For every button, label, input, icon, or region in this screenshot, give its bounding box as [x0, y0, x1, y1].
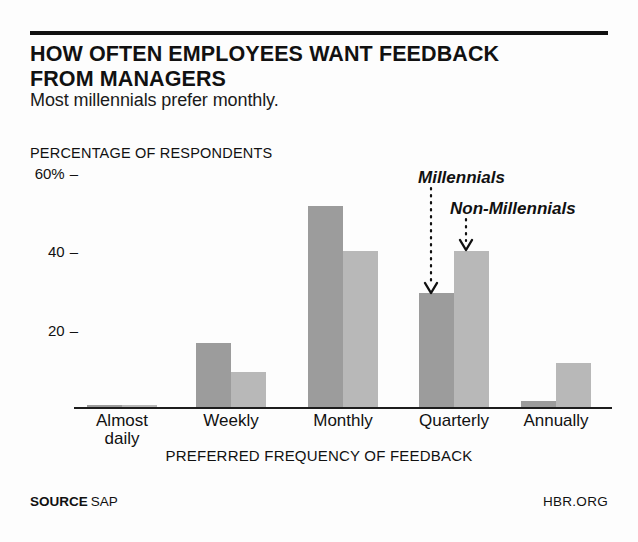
bar-non-millennials	[231, 372, 266, 409]
y-tick-20: 20–	[22, 322, 78, 339]
bar-non-millennials	[556, 363, 591, 409]
bar-millennials	[308, 206, 343, 409]
y-tick-40-label: 40	[48, 243, 65, 260]
source-value: SAP	[91, 494, 118, 509]
bar-group	[419, 251, 489, 409]
y-tick-60-label: 60%	[35, 165, 65, 182]
x-axis-baseline	[74, 407, 612, 409]
category-label: Annually	[486, 412, 626, 430]
y-axis-title: PERCENTAGE OF RESPONDENTS	[30, 145, 272, 161]
chart-subtitle: Most millennials prefer monthly.	[30, 90, 279, 111]
y-tick-40: 40–	[22, 243, 78, 260]
bar-millennials	[419, 293, 454, 409]
y-tick-20-label: 20	[48, 322, 65, 339]
y-tick-60-dash: –	[70, 165, 78, 182]
source-label: SOURCE	[30, 494, 88, 509]
bar-non-millennials	[343, 251, 378, 409]
y-tick-40-dash: –	[70, 243, 78, 260]
brand-mark: HBR.ORG	[543, 494, 608, 509]
annotation-non-millennials: Non-Millennials	[450, 199, 576, 219]
plot-area	[78, 160, 608, 409]
bar-group	[308, 206, 378, 409]
y-tick-20-dash: –	[70, 322, 78, 339]
title-line-2: FROM MANAGERS	[30, 67, 590, 92]
bar-non-millennials	[454, 251, 489, 409]
source-note: SOURCESAP	[30, 494, 118, 509]
bar-group	[521, 363, 591, 409]
x-axis-title: PREFERRED FREQUENCY OF FEEDBACK	[0, 447, 638, 464]
annotation-millennials: Millennials	[418, 168, 505, 188]
bar-group	[196, 343, 266, 409]
chart-figure: HOW OFTEN EMPLOYEES WANT FEEDBACK FROM M…	[0, 0, 638, 542]
y-tick-60: 60%–	[22, 165, 78, 182]
title-line-1: HOW OFTEN EMPLOYEES WANT FEEDBACK	[30, 42, 499, 66]
page-title: HOW OFTEN EMPLOYEES WANT FEEDBACK FROM M…	[30, 42, 590, 93]
bar-millennials	[196, 343, 231, 409]
top-rule	[30, 31, 608, 35]
